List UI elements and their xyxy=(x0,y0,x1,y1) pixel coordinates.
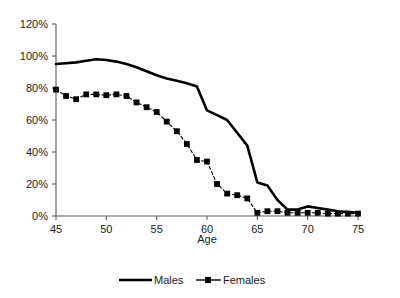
y-axis-tick-label: 40% xyxy=(26,146,48,158)
series-marker-females xyxy=(63,93,69,99)
data-series-group xyxy=(53,59,361,216)
series-marker-females xyxy=(53,87,59,93)
x-axis-tick-label: 55 xyxy=(151,223,163,235)
series-marker-females xyxy=(134,100,140,106)
series-marker-females xyxy=(345,211,351,217)
series-marker-females xyxy=(164,119,170,125)
series-marker-females xyxy=(305,210,311,216)
series-marker-females xyxy=(275,208,281,214)
series-marker-females xyxy=(174,128,180,134)
chart-plot-area: 0%20%40%60%80%100%120% 45505560657075 Ag… xyxy=(0,0,400,298)
series-marker-females xyxy=(325,211,331,217)
series-marker-females xyxy=(144,104,150,110)
series-marker-females xyxy=(244,196,250,202)
series-marker-females xyxy=(224,191,230,197)
series-line-males xyxy=(56,59,358,213)
series-marker-females xyxy=(214,181,220,187)
series-marker-females xyxy=(254,210,260,216)
y-axis-tick-label: 100% xyxy=(20,50,48,62)
series-marker-females xyxy=(154,109,160,115)
series-marker-females xyxy=(83,92,89,98)
x-axis-tick-label: 70 xyxy=(302,223,314,235)
x-axis-tick-label: 45 xyxy=(50,223,62,235)
series-marker-females xyxy=(234,192,240,198)
y-axis-tick-label: 60% xyxy=(26,114,48,126)
y-axis-tick-label: 0% xyxy=(32,210,48,222)
series-marker-females xyxy=(204,159,210,165)
chart-container: 0%20%40%60%80%100%120% 45505560657075 Ag… xyxy=(0,0,400,298)
series-marker-females xyxy=(335,211,341,217)
series-marker-females xyxy=(93,92,99,98)
x-axis-tick-label: 65 xyxy=(251,223,263,235)
x-axis-tick-label: 75 xyxy=(352,223,364,235)
series-marker-females xyxy=(73,96,79,102)
series-marker-females xyxy=(355,211,361,217)
chart-legend: MalesFemales xyxy=(119,274,266,286)
series-marker-females xyxy=(285,210,291,216)
series-marker-females xyxy=(194,157,200,163)
series-marker-females xyxy=(265,208,271,214)
legend-label-males: Males xyxy=(154,274,184,286)
y-axis-tick-label: 20% xyxy=(26,178,48,190)
series-marker-females xyxy=(295,210,301,216)
y-axis-tick-label: 120% xyxy=(20,18,48,30)
y-axis: 0%20%40%60%80%100%120% xyxy=(20,18,56,222)
y-axis-tick-label: 80% xyxy=(26,82,48,94)
series-marker-females xyxy=(124,93,130,99)
legend-marker-females xyxy=(205,277,211,283)
series-marker-females xyxy=(114,92,120,98)
series-marker-females xyxy=(184,141,190,147)
x-axis-tick-label: 50 xyxy=(100,223,112,235)
legend-label-females: Females xyxy=(223,274,266,286)
series-marker-females xyxy=(315,210,321,216)
x-axis-title: Age xyxy=(197,233,217,245)
series-marker-females xyxy=(103,92,109,98)
